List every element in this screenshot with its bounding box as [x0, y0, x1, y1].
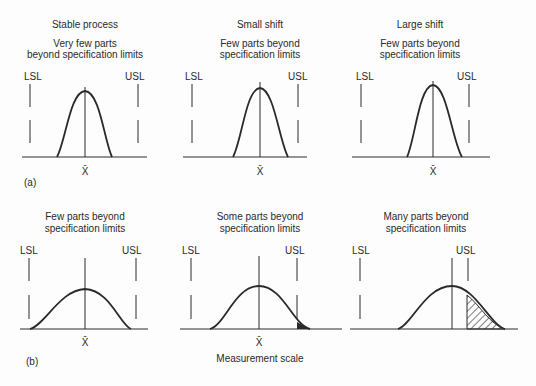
panel-b2-mean-label: X̄	[249, 337, 269, 349]
panel-b1-plot	[20, 258, 148, 329]
process-capability-figure: Stable process Very few parts beyond spe…	[0, 0, 536, 386]
panel-b1-usl-label: USL	[122, 245, 141, 257]
panel-b2-usl-label: USL	[285, 245, 304, 257]
measurement-scale-label: Measurement scale	[200, 353, 320, 365]
panel-a1-usl-label: USL	[125, 71, 144, 83]
panel-a1-plot	[22, 84, 147, 157]
panel-b2-lsl-label: LSL	[182, 245, 200, 257]
panel-b3-subtitle-1: Many parts beyond	[356, 211, 496, 223]
panel-b3-lsl-label: LSL	[352, 245, 370, 257]
panel-a1-subtitle-2: beyond specification limits	[15, 49, 155, 61]
panel-a2-heading: Small shift	[200, 19, 320, 31]
panel-b1-subtitle-2: specification limits	[15, 223, 155, 235]
panel-a2-plot	[183, 82, 307, 157]
panel-a3-usl-label: USL	[457, 71, 476, 83]
panel-a3-subtitle-2: specification limits	[350, 49, 490, 61]
panel-a2-mean-label: X̄	[250, 166, 270, 178]
panel-a2-usl-label: USL	[288, 71, 307, 83]
panel-a3-plot	[352, 81, 490, 157]
row-a-tag: (a)	[24, 177, 36, 189]
panel-a3-lsl-label: LSL	[356, 71, 374, 83]
panel-b1-mean-label: X̄	[75, 337, 95, 349]
panel-a1-lsl-label: LSL	[24, 71, 42, 83]
panel-b3-plot	[350, 258, 518, 329]
panel-b3-subtitle-2: specification limits	[356, 223, 496, 235]
panel-b2-plot	[180, 256, 342, 329]
panel-b1-lsl-label: LSL	[20, 245, 38, 257]
panel-b2-subtitle-1: Some parts beyond	[190, 211, 330, 223]
row-b-tag: (b)	[26, 356, 38, 368]
panel-a1-mean-label: X̄	[75, 166, 95, 178]
panel-b1-subtitle-1: Few parts beyond	[15, 211, 155, 223]
panel-b3-usl-label: USL	[456, 245, 475, 257]
panel-a2-subtitle-2: specification limits	[190, 49, 330, 61]
panel-a3-mean-label: X̄	[423, 166, 443, 178]
panel-a3-heading: Large shift	[360, 19, 480, 31]
panel-a1-heading: Stable process	[35, 19, 135, 31]
panel-a2-lsl-label: LSL	[185, 71, 203, 83]
panel-b2-subtitle-2: specification limits	[190, 223, 330, 235]
